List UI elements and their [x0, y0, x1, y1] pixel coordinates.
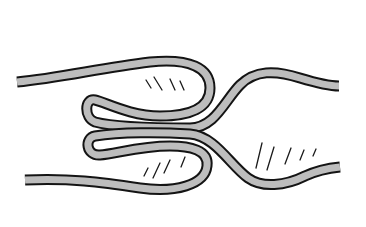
knot-diagram: [0, 0, 366, 227]
rope-lower-left: [25, 133, 340, 190]
rope-upper-left: [17, 61, 339, 128]
hatching-lower-right: [256, 143, 316, 170]
hatching-lower-left: [144, 157, 185, 178]
hatching-upper: [146, 77, 184, 90]
